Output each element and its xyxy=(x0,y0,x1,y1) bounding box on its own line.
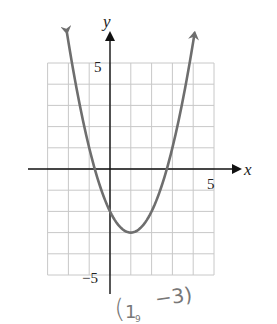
y-axis-label: y xyxy=(101,12,111,31)
annotation-open-paren: ( xyxy=(113,293,125,324)
x-axis-label: x xyxy=(243,160,252,179)
annotation-y-value: −3) xyxy=(153,282,193,311)
y-tick-label-5: 5 xyxy=(94,59,102,75)
vertex-annotation: ( 1 ₉ −3) xyxy=(113,282,193,324)
parabola-graph: x y 5 5 −5 ( 1 ₉ −3) xyxy=(0,0,277,324)
y-tick-label-neg5: −5 xyxy=(82,270,98,286)
annotation-separator: ₉ xyxy=(135,309,141,324)
x-tick-label-5: 5 xyxy=(207,176,215,192)
